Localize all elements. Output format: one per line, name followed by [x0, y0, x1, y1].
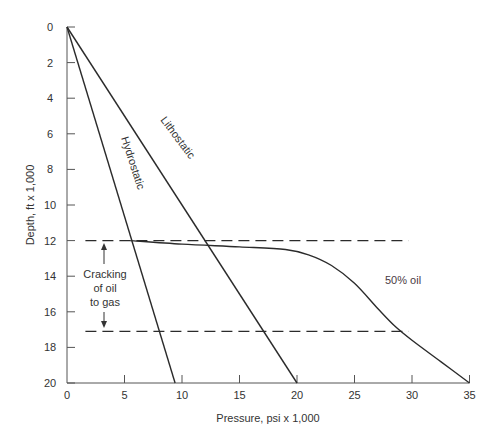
x-axis-title: Pressure, psi x 1,000 [216, 412, 319, 424]
y-tick-label: 10 [44, 199, 56, 211]
y-tick-label: 14 [44, 270, 56, 282]
lithostatic-line [67, 27, 297, 383]
hydrostatic-label: Hydrostatic [119, 135, 148, 192]
pressure-depth-chart: 0246810121416182005101520253035 Hydrosta… [0, 0, 504, 445]
x-tick-label: 35 [463, 389, 475, 401]
y-axis-title: Depth, ft x 1,000 [24, 165, 36, 246]
y-tick-label: 6 [47, 128, 53, 140]
y-tick-label: 0 [47, 21, 53, 33]
cracking-annotation: Cracking of oil to gas [83, 243, 126, 328]
hydrostatic-line [67, 27, 175, 383]
oil-curve-label: 50% oil [385, 274, 421, 286]
x-tick-label: 5 [121, 389, 127, 401]
x-tick-label: 0 [64, 389, 70, 401]
y-tick-label: 12 [44, 235, 56, 247]
cracking-line-3: to gas [90, 296, 120, 308]
y-tick-label: 18 [44, 341, 56, 353]
y-tick-label: 16 [44, 306, 56, 318]
y-tick-label: 2 [47, 57, 53, 69]
x-tick-label: 25 [348, 389, 360, 401]
arrow-down-icon [101, 312, 107, 328]
y-tick-label: 4 [47, 92, 53, 104]
series-layer [67, 27, 470, 383]
x-tick-label: 30 [406, 389, 418, 401]
x-tick-label: 15 [233, 389, 245, 401]
axes: 0246810121416182005101520253035 [44, 21, 476, 401]
cracking-line-2: of oil [93, 282, 116, 294]
y-tick-label: 20 [44, 377, 56, 389]
arrow-up-icon [101, 243, 107, 264]
cracking-line-1: Cracking [83, 268, 126, 280]
y-tick-label: 8 [47, 163, 53, 175]
50-oil-line [130, 241, 469, 383]
lithostatic-label: Lithostatic [158, 114, 198, 161]
x-tick-label: 10 [176, 389, 188, 401]
x-tick-label: 20 [291, 389, 303, 401]
